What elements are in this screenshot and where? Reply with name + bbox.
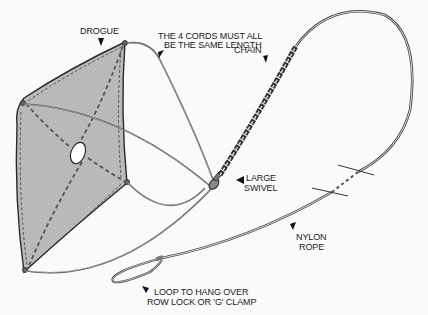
label-rope-line2: ROPE (299, 243, 324, 253)
rope-loop (112, 255, 163, 282)
label-chain: CHAIN (234, 46, 262, 56)
label-loop-line2: ROW LOCK OR 'G' CLAMP (147, 298, 256, 308)
drogue (16, 41, 129, 273)
label-drogue: DROGUE (80, 27, 119, 37)
pointer-arrows (98, 38, 296, 293)
diagram-canvas: DROGUE THE 4 CORDS MUST ALL BE THE SAME … (0, 0, 428, 315)
label-swivel-line2: SWIVEL (244, 184, 277, 194)
chain (220, 46, 296, 175)
